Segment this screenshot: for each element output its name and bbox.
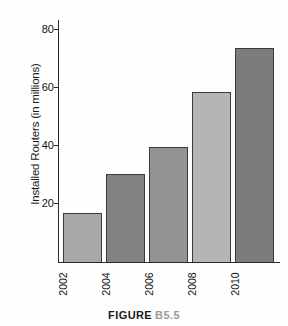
y-tick-label-80: 80 xyxy=(28,24,54,35)
x-tick-label-2006: 2006 xyxy=(143,264,155,304)
plot-area xyxy=(58,20,280,263)
y-tick-label-20: 20 xyxy=(28,198,54,209)
bar-group xyxy=(59,20,280,262)
bar-2010[interactable] xyxy=(235,48,274,263)
x-tick-label-2010: 2010 xyxy=(229,264,241,304)
figure-caption-label: FIGURE xyxy=(108,309,152,321)
figure-caption: FIGUREB5.5 xyxy=(0,309,288,321)
y-tick-mark-20 xyxy=(54,203,58,204)
y-tick-mark-80 xyxy=(54,29,58,30)
bar-2004[interactable] xyxy=(106,174,145,262)
figure-caption-number: B5.5 xyxy=(155,309,180,321)
x-tick-label-2002: 2002 xyxy=(57,264,69,304)
x-tick-label-2004: 2004 xyxy=(100,264,112,304)
y-tick-mark-60 xyxy=(54,87,58,88)
figure-container: Installed Routers (in millions) 80 60 40… xyxy=(0,0,288,326)
y-tick-label-60: 60 xyxy=(28,82,54,93)
x-tick-label-2008: 2008 xyxy=(186,264,198,304)
y-tick-label-group: 80 60 40 20 xyxy=(26,0,54,326)
bar-2006[interactable] xyxy=(149,147,188,263)
y-tick-label-40: 40 xyxy=(28,140,54,151)
bar-2008[interactable] xyxy=(192,92,231,263)
x-tick-label-group: 2002 2004 2006 2008 2010 xyxy=(58,266,280,302)
y-tick-mark-40 xyxy=(54,145,58,146)
bar-2002[interactable] xyxy=(63,213,102,263)
